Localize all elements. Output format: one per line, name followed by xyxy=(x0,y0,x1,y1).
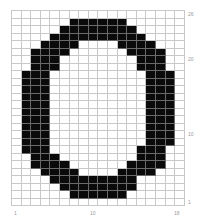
filled-cell xyxy=(118,184,128,192)
empty-cell xyxy=(12,176,22,184)
empty-cell xyxy=(12,191,22,199)
filled-cell xyxy=(146,139,156,147)
filled-cell xyxy=(60,41,70,49)
empty-cell xyxy=(166,191,176,199)
empty-cell xyxy=(108,41,118,49)
filled-cell xyxy=(108,19,118,27)
empty-cell xyxy=(79,11,89,19)
filled-cell xyxy=(50,41,60,49)
empty-cell xyxy=(127,86,137,94)
empty-cell xyxy=(41,26,51,34)
empty-cell xyxy=(156,34,166,42)
empty-cell xyxy=(98,79,108,87)
filled-cell xyxy=(137,146,147,154)
empty-cell xyxy=(137,71,147,79)
filled-cell xyxy=(41,79,51,87)
filled-cell xyxy=(137,41,147,49)
empty-cell xyxy=(175,124,185,132)
empty-cell xyxy=(12,101,22,109)
empty-cell xyxy=(108,79,118,87)
empty-cell xyxy=(70,56,80,64)
empty-cell xyxy=(60,154,70,162)
empty-cell xyxy=(22,176,32,184)
filled-cell xyxy=(31,86,41,94)
empty-cell xyxy=(127,19,137,27)
empty-cell xyxy=(156,26,166,34)
filled-cell xyxy=(166,131,176,139)
filled-cell xyxy=(50,161,60,169)
filled-cell xyxy=(146,154,156,162)
empty-cell xyxy=(127,146,137,154)
empty-cell xyxy=(50,124,60,132)
filled-cell xyxy=(31,56,41,64)
empty-cell xyxy=(98,64,108,72)
empty-cell xyxy=(70,71,80,79)
empty-cell xyxy=(50,11,60,19)
filled-cell xyxy=(127,169,137,177)
empty-cell xyxy=(118,11,128,19)
empty-cell xyxy=(98,146,108,154)
empty-cell xyxy=(108,161,118,169)
empty-cell xyxy=(12,64,22,72)
empty-cell xyxy=(98,169,108,177)
empty-cell xyxy=(137,19,147,27)
filled-cell xyxy=(127,161,137,169)
filled-cell xyxy=(31,109,41,117)
empty-cell xyxy=(108,146,118,154)
empty-cell xyxy=(79,94,89,102)
filled-cell xyxy=(31,94,41,102)
filled-cell xyxy=(146,79,156,87)
filled-cell xyxy=(60,34,70,42)
empty-cell xyxy=(12,199,22,207)
empty-cell xyxy=(50,109,60,117)
filled-cell xyxy=(146,71,156,79)
empty-cell xyxy=(79,86,89,94)
filled-cell xyxy=(156,94,166,102)
empty-cell xyxy=(79,154,89,162)
empty-cell xyxy=(175,11,185,19)
empty-cell xyxy=(50,139,60,147)
empty-cell xyxy=(70,109,80,117)
empty-cell xyxy=(98,124,108,132)
empty-cell xyxy=(70,64,80,72)
filled-cell xyxy=(79,34,89,42)
filled-cell xyxy=(156,49,166,57)
empty-cell xyxy=(89,49,99,57)
empty-cell xyxy=(137,176,147,184)
filled-cell xyxy=(60,169,70,177)
filled-cell xyxy=(118,19,128,27)
empty-cell xyxy=(118,116,128,124)
filled-cell xyxy=(146,116,156,124)
filled-cell xyxy=(31,131,41,139)
empty-cell xyxy=(127,71,137,79)
empty-cell xyxy=(166,26,176,34)
filled-cell xyxy=(108,184,118,192)
filled-cell xyxy=(41,71,51,79)
empty-cell xyxy=(12,41,22,49)
filled-cell xyxy=(79,19,89,27)
empty-cell xyxy=(79,131,89,139)
empty-cell xyxy=(89,79,99,87)
empty-cell xyxy=(22,34,32,42)
empty-cell xyxy=(89,94,99,102)
empty-cell xyxy=(175,184,185,192)
empty-cell xyxy=(89,139,99,147)
empty-cell xyxy=(60,124,70,132)
empty-cell xyxy=(166,41,176,49)
empty-cell xyxy=(50,71,60,79)
empty-cell xyxy=(166,154,176,162)
empty-cell xyxy=(118,146,128,154)
empty-cell xyxy=(108,56,118,64)
row-label-1: 1 xyxy=(188,200,191,205)
empty-cell xyxy=(118,56,128,64)
filled-cell xyxy=(98,34,108,42)
empty-cell xyxy=(79,79,89,87)
filled-cell xyxy=(31,139,41,147)
filled-cell xyxy=(108,26,118,34)
empty-cell xyxy=(12,86,22,94)
empty-cell xyxy=(118,94,128,102)
filled-cell xyxy=(156,101,166,109)
empty-cell xyxy=(166,184,176,192)
empty-cell xyxy=(175,169,185,177)
empty-cell xyxy=(98,109,108,117)
